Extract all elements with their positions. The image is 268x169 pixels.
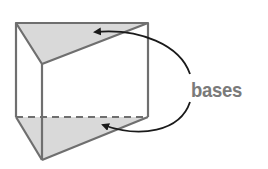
bases-label: bases xyxy=(191,78,242,102)
bottom-base xyxy=(16,117,148,160)
top-base xyxy=(16,23,148,64)
